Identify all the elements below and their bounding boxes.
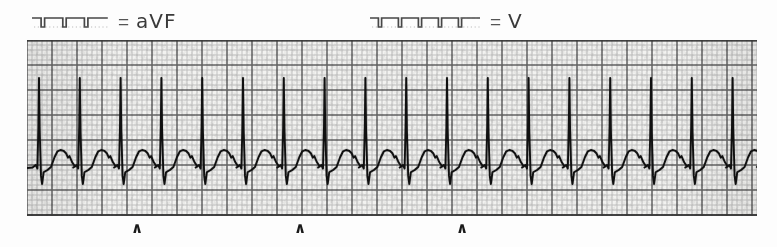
equals-sign-v: =	[490, 12, 501, 31]
caret-marker-2: ∧	[294, 221, 306, 236]
ecg-trace	[27, 40, 757, 216]
lead-label-avf: = aVF	[32, 6, 177, 36]
lead-label-v: = V	[370, 6, 523, 36]
lead-name-v: V	[508, 11, 523, 31]
ecg-page: = aVF = V ∧∧∧	[0, 0, 777, 247]
calibration-marker-icon	[370, 10, 482, 32]
ecg-rhythm-strip	[27, 40, 757, 216]
lead-name-avf: aVF	[136, 11, 176, 31]
caret-marker-3: ∧	[456, 221, 468, 236]
calibration-marker-icon	[32, 10, 110, 32]
equals-sign-avf: =	[118, 12, 129, 31]
caret-marker-1: ∧	[131, 221, 143, 236]
